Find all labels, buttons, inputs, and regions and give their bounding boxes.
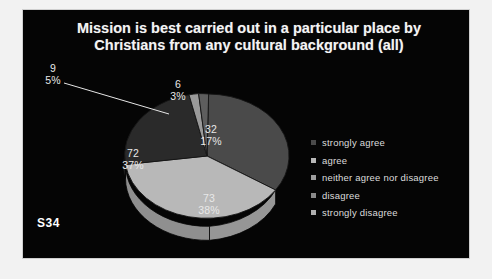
legend-swatch-icon xyxy=(311,140,316,145)
legend-item-disagree: disagree xyxy=(311,187,470,205)
presentation-slide: Mission is best carried out in a particu… xyxy=(22,9,470,259)
screenshot-frame: Mission is best carried out in a particu… xyxy=(0,0,492,279)
leader-line-disagree xyxy=(64,83,169,114)
legend-label: strongly agree xyxy=(322,137,385,148)
data-label-neither: 72 37% xyxy=(113,148,153,171)
data-label-disagree: 9 5% xyxy=(31,63,75,86)
legend-label: agree xyxy=(322,155,347,166)
legend-item-strongly-agree: strongly agree xyxy=(311,134,470,152)
legend-swatch-icon xyxy=(311,193,316,198)
legend-item-agree: agree xyxy=(311,152,470,170)
legend-item-strongly-disagree: strongly disagree xyxy=(311,204,470,222)
legend-label: disagree xyxy=(322,190,360,201)
legend-swatch-icon xyxy=(311,175,316,180)
data-label-agree: 73 38% xyxy=(189,193,229,216)
slide-code: S34 xyxy=(37,216,60,230)
legend-swatch-icon xyxy=(311,210,316,215)
legend-swatch-icon xyxy=(311,158,316,163)
data-label-strongly-agree: 32 17% xyxy=(191,124,231,147)
chart-legend: strongly agree agree neither agree nor d… xyxy=(311,134,470,222)
legend-label: strongly disagree xyxy=(322,207,398,218)
data-label-strongly-disagree: 6 3% xyxy=(160,79,196,102)
legend-item-neither-agree-nor-disagree: neither agree nor disagree xyxy=(311,169,470,187)
legend-label: neither agree nor disagree xyxy=(322,172,439,183)
